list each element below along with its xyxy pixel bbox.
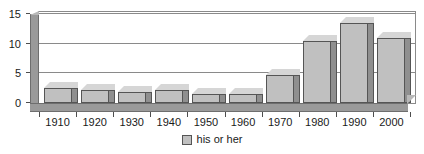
bar (229, 88, 257, 103)
bar (340, 17, 368, 103)
bar-side-face (368, 23, 374, 103)
x-axis-tick-label: 1950 (194, 117, 218, 128)
bar-front-face (303, 41, 331, 103)
x-axis-tick-label: 1960 (231, 117, 255, 128)
y-axis-tick-label: 10 (9, 38, 21, 49)
legend-entry-his-or-her: his or her (182, 134, 243, 145)
bar-top-face (118, 86, 152, 92)
bar (192, 88, 220, 103)
bar (44, 82, 72, 103)
bar-top-face (229, 88, 263, 94)
bar-side-face (72, 88, 78, 103)
x-axis-tick-label: 1970 (268, 117, 292, 128)
bar-top-face (303, 35, 337, 41)
bar-top-face (155, 84, 189, 90)
bar-side-face (109, 90, 115, 103)
bar-side-face (331, 41, 337, 103)
x-axis-tick-label: 1940 (157, 117, 181, 128)
bar (118, 86, 146, 103)
x-axis-floor-right-face (407, 95, 416, 104)
plot-area: 051015 (30, 11, 416, 112)
bar-top-face (377, 32, 411, 38)
bar-front-face (118, 92, 146, 103)
legend-entry-label: his or her (197, 134, 243, 145)
y-axis-wall-top-face (30, 11, 39, 15)
bar (155, 84, 183, 103)
x-axis-tick-labels: 1910192019301940195019601970198019902000 (30, 117, 416, 131)
bar-chart: 051015 191019201930194019501960197019801… (0, 0, 424, 154)
bar-front-face (155, 90, 183, 103)
bar (81, 84, 109, 103)
y-axis-wall (30, 14, 39, 112)
legend-swatch-icon (182, 135, 192, 145)
bar (266, 69, 294, 103)
bar-side-face (183, 90, 189, 103)
x-axis-tick-label: 1990 (342, 117, 366, 128)
bar-top-face (192, 88, 226, 94)
x-axis-tick-label: 1930 (120, 117, 144, 128)
bar-front-face (81, 90, 109, 103)
gridline (38, 13, 416, 14)
y-axis-tick-label: 5 (15, 68, 21, 79)
bar-side-face (405, 38, 411, 103)
bar-front-face (44, 88, 72, 103)
bar-side-face (294, 75, 300, 103)
bar-front-face (340, 23, 368, 103)
bar-front-face (229, 94, 257, 103)
bar-top-face (340, 17, 374, 23)
bar-top-face (81, 84, 115, 90)
bar (377, 32, 405, 103)
y-axis-tick-mark: 0 (26, 102, 30, 103)
y-axis-tick-label: 0 (15, 98, 21, 109)
bar-top-face (266, 69, 300, 75)
x-axis-tick-label: 1980 (305, 117, 329, 128)
bar-front-face (192, 94, 220, 103)
bar-top-face (44, 82, 78, 88)
y-axis-tick-label: 15 (9, 9, 21, 20)
x-axis-tick-label: 1910 (45, 117, 69, 128)
bar-side-face (257, 94, 263, 103)
bar (303, 35, 331, 103)
chart-legend: his or her (0, 134, 424, 145)
bar-front-face (377, 38, 405, 103)
y-axis-tick-mark: 5 (26, 72, 30, 73)
bar-side-face (220, 94, 226, 103)
x-axis-tick-label: 1920 (82, 117, 106, 128)
y-axis-tick-mark: 15 (26, 13, 30, 14)
x-axis-floor (30, 103, 408, 112)
bar-front-face (266, 75, 294, 103)
x-axis-tick-label: 2000 (379, 117, 403, 128)
y-axis-tick-mark: 10 (26, 43, 30, 44)
bar-side-face (146, 92, 152, 103)
